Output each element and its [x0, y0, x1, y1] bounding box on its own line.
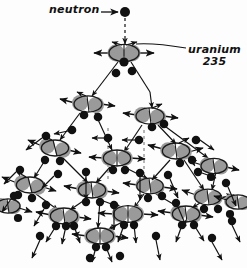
emitted-neutron: [62, 222, 70, 230]
free-neutron: [42, 201, 50, 209]
emitted-neutron: [28, 194, 36, 202]
emitted-neutron: [70, 222, 78, 230]
emitted-neutron: [190, 221, 198, 229]
free-neutron: [110, 201, 118, 209]
emitted-neutron: [128, 67, 137, 76]
emitted-neutron: [121, 166, 129, 174]
free-neutron: [135, 136, 144, 145]
emitted-neutron: [112, 69, 121, 78]
emitted-neutron: [96, 198, 104, 206]
free-neutron: [68, 126, 77, 135]
free-neutron: [208, 234, 216, 242]
fission-diagram-figure: neutron uranium 235: [0, 0, 247, 268]
emitted-neutron: [80, 111, 89, 120]
emitted-neutron: [14, 214, 22, 222]
free-neutron: [116, 252, 124, 260]
emitted-neutron: [92, 243, 100, 251]
emitted-neutron: [56, 157, 64, 165]
neutron-annotation-label: neutron: [49, 3, 100, 16]
emitted-neutron: [102, 243, 110, 251]
fission-chain-reaction-svg: [0, 0, 247, 268]
emitted-neutron: [226, 210, 234, 218]
free-neutron: [54, 170, 62, 178]
free-neutron: [152, 232, 160, 240]
free-neutron: [194, 168, 202, 176]
emitted-neutron: [148, 123, 157, 132]
emitted-neutron: [52, 222, 60, 230]
emitted-neutron: [119, 57, 128, 66]
free-neutron: [10, 192, 18, 200]
free-neutron: [164, 171, 172, 179]
uranium-label-line2: 235: [188, 56, 241, 68]
free-neutron: [16, 166, 24, 174]
emitted-neutron: [214, 205, 222, 213]
free-neutron: [192, 136, 201, 145]
emitted-neutron: [94, 113, 103, 122]
free-neutron: [228, 217, 236, 225]
emitted-neutron: [144, 194, 152, 202]
incident-neutron-dot: [120, 7, 130, 17]
emitted-neutron: [120, 221, 128, 229]
emitted-neutron: [41, 156, 49, 164]
free-neutron: [104, 134, 113, 143]
free-neutron: [136, 169, 144, 177]
free-neutron: [172, 199, 180, 207]
emitted-neutron: [160, 120, 169, 129]
free-neutron: [42, 132, 51, 141]
emitted-neutron: [176, 159, 184, 167]
free-neutron: [82, 168, 90, 176]
free-neutron: [86, 254, 94, 262]
uranium-annotation-label: uranium 235: [188, 44, 241, 68]
free-neutron: [222, 179, 230, 187]
emitted-neutron: [158, 192, 166, 200]
free-neutron: [36, 232, 44, 240]
emitted-neutron: [109, 166, 117, 174]
emitted-neutron: [130, 221, 138, 229]
